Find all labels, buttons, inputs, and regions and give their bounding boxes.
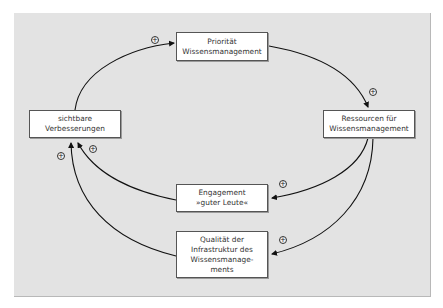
node-prioritaet-wissensmanagement: Priorität Wissensmanagement [176, 32, 268, 61]
node-label: Qualität der Infrastruktur des Wissensma… [191, 235, 254, 275]
edge-qualitaet-verbesserungen [71, 143, 176, 256]
plus-polarity-icon: + [57, 152, 65, 160]
plus-polarity-icon: + [279, 236, 287, 244]
node-label: Priorität Wissensmanagement [182, 37, 262, 57]
node-label: sichtbare Verbesserungen [45, 114, 105, 134]
plus-polarity-icon: + [89, 145, 97, 153]
node-label: Engagement »guter Leute« [196, 188, 248, 208]
node-qualitaet-infrastruktur: Qualität der Infrastruktur des Wissensma… [176, 231, 268, 278]
edge-prioritaet-ressourcen [269, 46, 368, 107]
edge-ressourcen-engagement [272, 138, 368, 198]
node-label: Ressourcen für Wissensmanagement [329, 114, 409, 134]
plus-polarity-icon: + [151, 36, 159, 44]
plus-polarity-icon: + [369, 88, 377, 96]
node-ressourcen-fuer-wissensmanagement: Ressourcen für Wissensmanagement [323, 110, 415, 138]
edge-verbesserungen-prioritaet [75, 43, 174, 110]
node-sichtbare-verbesserungen: sichtbare Verbesserungen [29, 110, 121, 138]
node-engagement-guter-leute: Engagement »guter Leute« [176, 184, 268, 212]
edge-ressourcen-qualitaet [272, 138, 373, 254]
plus-polarity-icon: + [279, 180, 287, 188]
